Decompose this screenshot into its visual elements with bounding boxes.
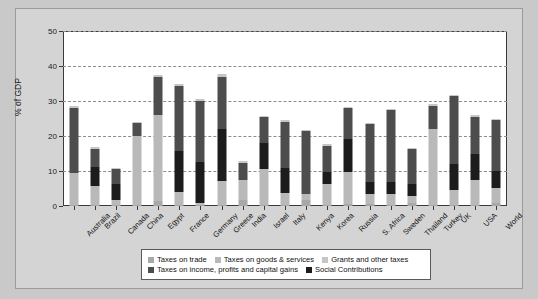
bar-segment[interactable] [428, 106, 437, 129]
bar-segment[interactable] [492, 188, 501, 203]
bar-segment[interactable] [323, 144, 332, 146]
bar-stack[interactable] [344, 107, 353, 206]
bar-segment[interactable] [111, 169, 120, 185]
bar-segment[interactable] [323, 172, 332, 184]
bar-segment[interactable] [259, 169, 268, 205]
bar-stack[interactable] [175, 84, 184, 206]
bar-segment[interactable] [344, 108, 353, 139]
bar-segment[interactable] [492, 120, 501, 171]
legend-item[interactable]: Taxes on trade [148, 255, 207, 264]
bar-stack[interactable] [386, 109, 395, 206]
bar-stack[interactable] [471, 115, 480, 206]
bar-stack[interactable] [196, 99, 205, 206]
bar-segment[interactable] [259, 117, 268, 143]
legend-item[interactable]: Taxes on income, profits and capital gai… [148, 265, 298, 274]
bar-segment[interactable] [175, 192, 184, 206]
bar-segment[interactable] [69, 108, 78, 173]
bar-segment[interactable] [344, 172, 353, 204]
bar-stack[interactable] [323, 144, 332, 206]
bar-segment[interactable] [238, 163, 247, 181]
bar-segment[interactable] [238, 180, 247, 200]
bar-segment[interactable] [69, 106, 78, 108]
bar-segment[interactable] [196, 162, 205, 203]
bar-stack[interactable] [428, 104, 437, 206]
bar-segment[interactable] [428, 104, 437, 106]
bar-segment[interactable] [154, 75, 163, 77]
bar-stack[interactable] [90, 147, 99, 207]
bar-segment[interactable] [365, 124, 374, 182]
bar-segment[interactable] [132, 123, 141, 136]
bar-segment[interactable] [217, 129, 226, 181]
bar-segment[interactable] [217, 77, 226, 129]
bar-segment[interactable] [450, 164, 459, 191]
bar-stack[interactable] [450, 95, 459, 206]
bar-segment[interactable] [407, 196, 416, 203]
bar-segment[interactable] [386, 110, 395, 181]
bar-stack[interactable] [302, 130, 311, 206]
bar-segment[interactable] [90, 167, 99, 186]
bar-segment[interactable] [323, 184, 332, 205]
bar-segment[interactable] [154, 115, 163, 201]
bar-segment[interactable] [90, 149, 99, 168]
bar-segment[interactable] [365, 182, 374, 194]
bar-segment[interactable] [217, 181, 226, 206]
bar-segment[interactable] [90, 147, 99, 149]
bar-segment[interactable] [386, 182, 395, 194]
bar-segment[interactable] [132, 122, 141, 124]
bar-segment[interactable] [471, 115, 480, 116]
bar-segment[interactable] [280, 193, 289, 205]
bar-segment[interactable] [217, 74, 226, 76]
bar-stack[interactable] [407, 148, 416, 206]
bar-segment[interactable] [492, 119, 501, 120]
bar-segment[interactable] [154, 77, 163, 116]
bar-segment[interactable] [386, 109, 395, 110]
bar-segment[interactable] [302, 194, 311, 200]
legend-item[interactable]: Social Contributions [306, 265, 383, 274]
bar-segment[interactable] [365, 194, 374, 204]
bar-segment[interactable] [196, 101, 205, 162]
bar-segment[interactable] [450, 95, 459, 96]
bar-segment[interactable] [259, 143, 268, 169]
bar-segment[interactable] [69, 173, 78, 206]
bar-segment[interactable] [196, 203, 205, 206]
bar-segment[interactable] [344, 107, 353, 108]
bar-segment[interactable] [175, 86, 184, 151]
bar-stack[interactable] [492, 119, 501, 206]
bar-segment[interactable] [196, 99, 205, 100]
bar-segment[interactable] [280, 122, 289, 168]
bar-segment[interactable] [450, 190, 459, 205]
bar-stack[interactable] [217, 74, 226, 206]
bar-stack[interactable] [280, 120, 289, 206]
bar-stack[interactable] [259, 116, 268, 206]
bar-segment[interactable] [175, 84, 184, 86]
bar-stack[interactable] [111, 168, 120, 206]
bar-segment[interactable] [471, 180, 480, 206]
bar-segment[interactable] [302, 130, 311, 131]
legend-item[interactable]: Taxes on goods & services [215, 255, 314, 264]
bar-segment[interactable] [280, 120, 289, 122]
bar-segment[interactable] [280, 168, 289, 194]
bar-segment[interactable] [492, 171, 501, 188]
bar-segment[interactable] [365, 123, 374, 124]
bar-stack[interactable] [132, 122, 141, 206]
bar-stack[interactable] [154, 75, 163, 206]
bar-segment[interactable] [428, 129, 437, 205]
bar-stack[interactable] [69, 106, 78, 206]
bar-segment[interactable] [90, 186, 99, 204]
bar-segment[interactable] [407, 149, 416, 184]
bar-segment[interactable] [111, 168, 120, 169]
bar-segment[interactable] [386, 194, 395, 206]
bar-segment[interactable] [344, 139, 353, 172]
bar-stack[interactable] [365, 123, 374, 206]
bar-segment[interactable] [471, 154, 480, 180]
bar-stack[interactable] [238, 161, 247, 207]
bar-segment[interactable] [407, 184, 416, 195]
legend-item[interactable]: Grants and other taxes [322, 255, 408, 264]
bar-segment[interactable] [302, 131, 311, 194]
bar-segment[interactable] [132, 136, 141, 205]
bar-segment[interactable] [259, 116, 268, 117]
bar-segment[interactable] [111, 184, 120, 200]
bar-segment[interactable] [450, 96, 459, 163]
bar-segment[interactable] [111, 200, 120, 205]
bar-segment[interactable] [175, 151, 184, 192]
